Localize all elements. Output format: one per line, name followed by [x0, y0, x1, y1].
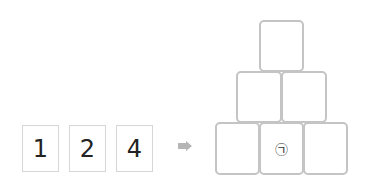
pyramid-bottom-middle-box: ㉠: [259, 122, 304, 175]
pyramid-middle-left-box: [236, 71, 282, 123]
number-card-1: 1: [22, 125, 59, 172]
arrow-right-icon: [178, 141, 192, 151]
pyramid-bottom-right-box: [303, 122, 348, 175]
number-card-3: 4: [116, 125, 153, 172]
pyramid-bottom-left-box: [215, 122, 260, 175]
pyramid-top-box: [259, 20, 304, 72]
number-card-2: 2: [69, 125, 106, 172]
pyramid-middle-right-box: [281, 71, 327, 123]
